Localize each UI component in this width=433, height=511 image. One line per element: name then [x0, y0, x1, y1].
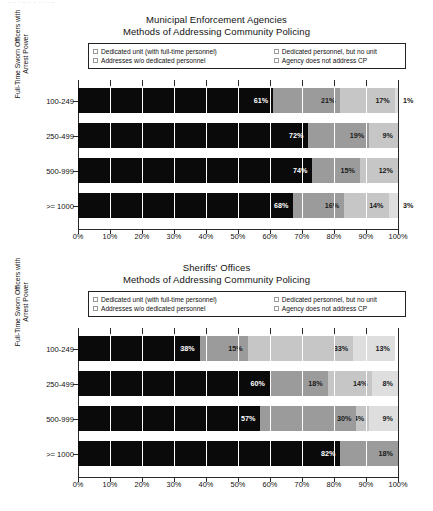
x-axis-tick-label: 100%: [389, 480, 408, 489]
x-axis-tick-top: [334, 328, 335, 334]
bar-segment[interactable]: 15%: [200, 336, 248, 361]
x-axis-tick-top: [398, 328, 399, 334]
x-axis-tick-label: 50%: [231, 480, 246, 489]
x-axis-tick-label: 40%: [199, 232, 214, 241]
chart-page: · - -- · -- - ·· - · - -- Municipal Enfo…: [0, 0, 433, 511]
bar-segment[interactable]: 74%: [78, 158, 312, 183]
x-axis-tick-label: 100%: [389, 232, 408, 241]
y-axis-category-labels: 100-249250-499500-999>= 1000: [26, 334, 74, 471]
x-axis-tick-top: [334, 80, 335, 86]
y-axis-label-line1: Full-Time Sworn Officers with: [14, 258, 21, 346]
plot-right-border: [398, 328, 399, 477]
bar-segment[interactable]: 21%: [273, 88, 340, 113]
x-axis-tick-top: [270, 328, 271, 334]
legend-item-dedicated-personnel: Dedicated personnel, but no unit: [274, 47, 401, 56]
x-axis-tick-label: 20%: [135, 480, 150, 489]
x-axis-tick-top: [206, 80, 207, 86]
y-axis-category-labels: 100-249250-499500-999>= 1000: [26, 86, 74, 223]
legend: Dedicated unit (with full-time personnel…: [88, 43, 406, 69]
bar-segment[interactable]: 38%: [78, 336, 200, 361]
bar-segment[interactable]: 16%: [293, 193, 344, 218]
bar-segment[interactable]: 18%: [270, 371, 328, 396]
bar-segment[interactable]: [395, 88, 398, 113]
legend-swatch-icon: [274, 297, 279, 302]
bar-segment[interactable]: 57%: [78, 406, 260, 431]
legend-label: Dedicated personnel, but no unit: [282, 295, 377, 304]
bar-segment[interactable]: 8%: [372, 371, 398, 396]
legend-item-dedicated-unit: Dedicated unit (with full-time personnel…: [93, 47, 274, 56]
x-axis-tick-top: [110, 328, 111, 334]
x-axis-tick-labels: 0%10%20%30%40%50%60%70%80%90%100%: [78, 232, 400, 244]
x-axis-tick-top: [366, 328, 367, 334]
x-axis-tick-label: 0%: [73, 232, 84, 241]
bar-value-label: 3%: [403, 201, 413, 210]
x-axis-tick-label: 90%: [359, 232, 374, 241]
chart-title: Sheriffs' Offices Methods of Addressing …: [0, 258, 433, 286]
bar-segment[interactable]: 15%: [312, 158, 360, 183]
scan-artifact-text: · - -- · -- - ·· - · - --: [4, 0, 184, 5]
y-axis-category-label: 100-249: [46, 97, 74, 106]
x-axis-tick-label: 10%: [103, 232, 118, 241]
legend-item-dedicated-unit: Dedicated unit (with full-time personnel…: [93, 295, 274, 304]
bar-segment[interactable]: 12%: [360, 158, 398, 183]
y-axis-category-label: 500-999: [46, 415, 74, 424]
legend-row: Dedicated unit (with full-time personnel…: [93, 47, 401, 56]
bar-segment[interactable]: [389, 193, 399, 218]
x-axis-tick-label: 60%: [263, 480, 278, 489]
legend-swatch-icon: [274, 58, 279, 63]
legend-label: Addresses w/o dedicated personnel: [101, 304, 205, 313]
legend-item-does-not-address: Agency does not address CP: [274, 56, 401, 65]
bar-segment[interactable]: 19%: [308, 123, 369, 148]
bar-row[interactable]: 74%15%12%: [78, 158, 398, 183]
bar-row[interactable]: 68%16%14%: [78, 193, 398, 218]
legend-item-no-dedicated-personnel: Addresses w/o dedicated personnel: [93, 56, 274, 65]
legend-item-dedicated-personnel: Dedicated personnel, but no unit: [274, 295, 401, 304]
y-axis-category-label: >= 1000: [46, 202, 74, 211]
bar-value-label: 1%: [403, 96, 413, 105]
x-axis-tick-top: [398, 80, 399, 86]
bar-segment[interactable]: 17%: [340, 88, 394, 113]
bar-segment[interactable]: 72%: [78, 123, 308, 148]
bar-segment[interactable]: 14%: [344, 193, 388, 218]
legend-label: Agency does not address CP: [282, 56, 367, 65]
bar-row[interactable]: 57%30%4%9%: [78, 406, 398, 431]
legend-label: Dedicated unit (with full-time personnel…: [101, 47, 217, 56]
bar-segment[interactable]: 61%: [78, 88, 273, 113]
x-axis-tick-top: [238, 328, 239, 334]
legend-label: Addresses w/o dedicated personnel: [101, 56, 205, 65]
legend-swatch-icon: [274, 49, 279, 54]
y-axis-category-label: 250-499: [46, 132, 74, 141]
bar-segment[interactable]: 60%: [78, 371, 270, 396]
bar-segment[interactable]: 9%: [369, 406, 398, 431]
x-axis-tick-top: [238, 80, 239, 86]
chart-title-line2: Methods of Addressing Community Policing: [0, 26, 433, 38]
legend-swatch-icon: [93, 306, 98, 311]
x-axis-tick-label: 30%: [167, 480, 182, 489]
bar-row[interactable]: 72%19%9%: [78, 123, 398, 148]
x-axis-tick-label: 60%: [263, 232, 278, 241]
bar-row[interactable]: 38%15%33%13%: [78, 336, 398, 361]
y-axis-category-label: 500-999: [46, 167, 74, 176]
y-axis-category-label: >= 1000: [46, 450, 74, 459]
x-axis-tick-top: [142, 328, 143, 334]
x-axis-tick-label: 70%: [295, 232, 310, 241]
x-axis-tick-top: [302, 328, 303, 334]
bar-segment[interactable]: 30%: [260, 406, 356, 431]
bar-row[interactable]: 61%21%17%: [78, 88, 398, 113]
legend-row: Dedicated unit (with full-time personnel…: [93, 295, 401, 304]
bar-segment[interactable]: 33%: [248, 336, 354, 361]
legend-swatch-icon: [93, 297, 98, 302]
legend-row: Addresses w/o dedicated personnel Agency…: [93, 56, 401, 65]
bar-segment[interactable]: 18%: [340, 441, 398, 466]
bar-segment[interactable]: 68%: [78, 193, 293, 218]
legend-item-does-not-address: Agency does not address CP: [274, 304, 401, 313]
plot-area: 61%21%17%1%72%19%9%74%15%12%68%16%14%3%: [78, 86, 398, 223]
bar-segment[interactable]: 13%: [353, 336, 395, 361]
bar-row[interactable]: 60%18%14%8%: [78, 371, 398, 396]
bar-row[interactable]: 82%18%: [78, 441, 398, 466]
bar-segment[interactable]: 9%: [369, 123, 398, 148]
bar-segment[interactable]: 82%: [78, 441, 340, 466]
bar-segment[interactable]: 4%: [356, 406, 369, 431]
bar-segment[interactable]: 14%: [328, 371, 373, 396]
x-axis-tick-label: 50%: [231, 232, 246, 241]
